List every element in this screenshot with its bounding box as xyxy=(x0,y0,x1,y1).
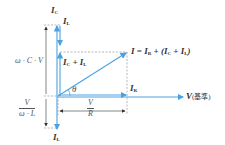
label-v-reference: V(基準) xyxy=(186,92,211,101)
label-v-over-r: VR xyxy=(87,99,94,118)
label-v-over-omega-l: Vω · L xyxy=(19,99,35,118)
label-theta: θ xyxy=(72,85,76,94)
label-i-total: I = IR + (IC + IL) xyxy=(131,47,191,56)
label-il-bottom: IL xyxy=(53,133,60,142)
phasor-diagram xyxy=(0,0,225,145)
label-ir: IR xyxy=(130,84,137,93)
label-ic-top: IC xyxy=(51,6,58,15)
label-ic-plus-il: IC + IL xyxy=(63,58,87,67)
label-il-top: IL xyxy=(63,17,70,26)
label-omega-c-v: ω · C · V xyxy=(15,57,43,65)
